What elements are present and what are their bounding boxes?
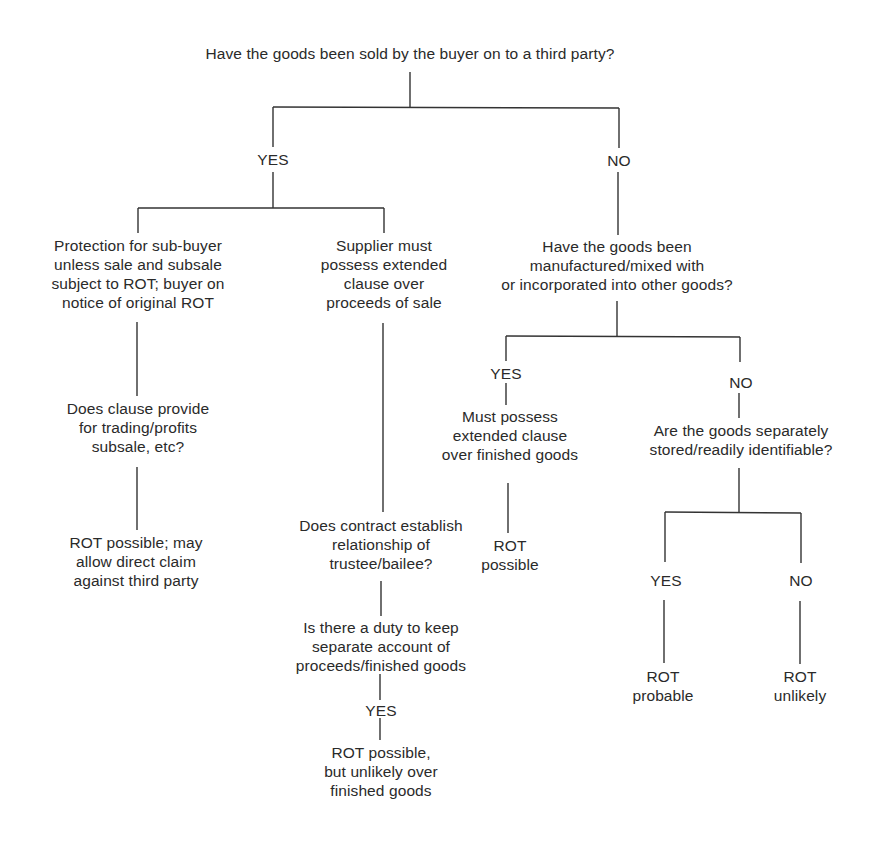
node-extended-finished: Must possess extended clause over finish…	[442, 407, 578, 464]
node-manufactured-mixed: Have the goods been manufactured/mixed w…	[501, 237, 733, 294]
node-separate-account: Is there a duty to keep separate account…	[296, 618, 466, 675]
branch-label-stored-yes: YES	[650, 571, 681, 590]
node-rot-probable: ROT probable	[632, 667, 693, 705]
branch-label-stored-no: NO	[789, 571, 812, 590]
node-rot-possible-unlikely: ROT possible, but unlikely over finished…	[324, 743, 438, 800]
node-rot-possible: ROT possible	[481, 536, 539, 574]
branch-label-mixed-yes: YES	[490, 364, 521, 383]
node-supplier-extended: Supplier must possess extended clause ov…	[321, 236, 448, 312]
branch-label-root-yes: YES	[257, 150, 288, 169]
node-trustee-bailee: Does contract establish relationship of …	[299, 516, 462, 573]
node-rot-direct-claim: ROT possible; may allow direct claim aga…	[69, 533, 202, 590]
node-rot-unlikely: ROT unlikely	[774, 667, 827, 705]
branch-label-separate-account-yes: YES	[365, 701, 396, 720]
decision-tree-diagram: Have the goods been sold by the buyer on…	[0, 0, 892, 846]
node-protection-sub-buyer: Protection for sub-buyer unless sale and…	[52, 236, 225, 312]
root-question: Have the goods been sold by the buyer on…	[205, 44, 614, 63]
branch-label-root-no: NO	[607, 151, 630, 170]
node-clause-trading: Does clause provide for trading/profits …	[67, 399, 209, 456]
branch-label-mixed-no: NO	[729, 373, 752, 392]
node-separately-stored: Are the goods separately stored/readily …	[650, 421, 833, 459]
